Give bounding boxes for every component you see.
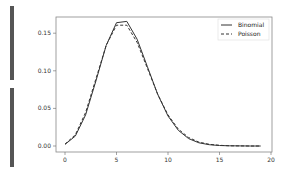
x-tick-label: 5 [115, 156, 119, 163]
x-tick-label: 0 [63, 156, 67, 163]
x-tick-label: 20 [267, 156, 275, 163]
line-chart: 0.000.050.100.15 05101520 Binomial Poiss… [0, 0, 288, 176]
y-tick-label: 0.05 [38, 104, 52, 111]
y-axis: 0.000.050.100.15 [38, 29, 56, 149]
y-tick-label: 0.00 [38, 142, 52, 149]
y-tick-label: 0.15 [38, 29, 52, 36]
legend: Binomial Poisson [218, 19, 269, 40]
x-tick-label: 15 [216, 156, 224, 163]
x-axis: 05101520 [63, 152, 275, 163]
x-tick-label: 10 [164, 156, 172, 163]
y-tick-label: 0.10 [38, 67, 52, 74]
legend-label-binomial: Binomial [238, 21, 264, 28]
legend-label-poisson: Poisson [238, 30, 261, 37]
poisson-line [65, 25, 261, 146]
